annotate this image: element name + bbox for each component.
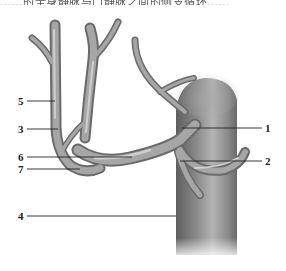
vessel-diagram: 5 3 6 7 4 1 2 xyxy=(0,0,286,271)
label-3: 3 xyxy=(18,123,24,135)
label-1: 1 xyxy=(265,122,271,134)
label-5: 5 xyxy=(18,95,24,107)
label-6: 6 xyxy=(18,151,24,163)
label-7: 7 xyxy=(18,163,24,175)
label-2: 2 xyxy=(265,155,271,167)
label-4: 4 xyxy=(18,210,24,222)
